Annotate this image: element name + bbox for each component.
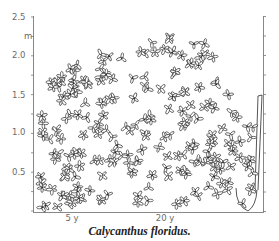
shrub-growth-diagram: m 2.52.01.51.00.5 5 y20 y Calycanthus fl… [0,0,279,241]
y-tick-label: 2.0 [12,51,26,60]
y-tick-label: 2.5 [12,13,26,22]
y-tick-label: 0.5 [12,168,26,177]
y-tick-label: 1.5 [12,91,26,100]
y-axis-unit-label: m [24,31,32,41]
leaf-clusters [35,32,258,212]
x-tick-label: 20 y [156,214,175,223]
x-tick-label: 5 y [65,214,78,223]
y-tick-label: 1.0 [12,128,26,137]
shrub-illustration [0,0,279,241]
figure-caption: Calycanthus floridus. [0,225,279,237]
